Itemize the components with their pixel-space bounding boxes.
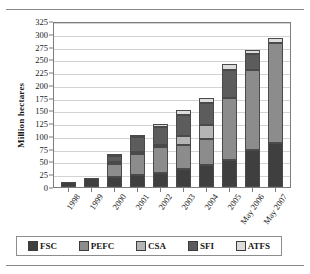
y-tick-label: 150 <box>35 107 48 116</box>
bar-segment-fsc[interactable] <box>153 173 168 187</box>
plot-area <box>53 22 291 188</box>
y-tick-label: 300 <box>35 31 48 40</box>
legend-swatch-csa <box>136 241 146 251</box>
bar-segment-sfi[interactable] <box>153 127 168 145</box>
chart-legend: FSCPEFCCSASFIATFS <box>16 236 282 256</box>
bar-segment-csa[interactable] <box>199 125 214 139</box>
bar-segment-sfi[interactable] <box>176 115 191 136</box>
figure-page: Million hectares 02550751001251501752002… <box>0 0 310 274</box>
bar-segment-sfi[interactable] <box>130 137 145 152</box>
y-tick-label: 0 <box>44 184 48 193</box>
bar-segment-sfi[interactable] <box>199 103 214 125</box>
bar-stack[interactable] <box>268 38 283 187</box>
x-tick-label: 1998 <box>64 192 82 212</box>
bar-segment-fsc[interactable] <box>245 150 260 187</box>
y-axis-tick-labels: 0255075100125150175200225250275300325 <box>0 22 53 188</box>
y-tick-label: 100 <box>35 133 48 142</box>
x-tick-label: 2005 <box>225 192 243 212</box>
legend-item-csa[interactable]: CSA <box>136 241 166 251</box>
bar-segment-pefc[interactable] <box>268 43 283 143</box>
bar-stack[interactable] <box>153 124 168 187</box>
legend-label: FSC <box>40 241 57 251</box>
bar-segment-fsc[interactable] <box>84 178 99 187</box>
bar-segment-csa[interactable] <box>176 136 191 145</box>
bar-segment-sfi[interactable] <box>222 70 237 98</box>
x-tick-label: 1999 <box>87 192 105 212</box>
y-tick-label: 200 <box>35 82 48 91</box>
x-tick-label: 2004 <box>202 192 220 212</box>
chart-figure: Million hectares 02550751001251501752002… <box>0 12 310 266</box>
legend-label: CSA <box>148 241 166 251</box>
legend-swatch-sfi <box>188 241 198 251</box>
bar-segment-pefc[interactable] <box>153 147 168 173</box>
bar-segment-fsc[interactable] <box>61 182 76 187</box>
legend-item-fsc[interactable]: FSC <box>28 241 57 251</box>
bar-segment-pefc[interactable] <box>199 139 214 166</box>
bar-stack[interactable] <box>61 182 76 187</box>
bar-stack[interactable] <box>107 154 122 187</box>
bar-segment-pefc[interactable] <box>130 154 145 175</box>
bar-segment-fsc[interactable] <box>222 160 237 187</box>
bar-stack[interactable] <box>84 178 99 187</box>
legend-label: SFI <box>200 241 214 251</box>
legend-label: ATFS <box>248 241 270 251</box>
bar-stack[interactable] <box>130 135 145 188</box>
bar-segment-sfi[interactable] <box>245 54 260 70</box>
y-tick-label: 25 <box>40 171 49 180</box>
bar-segment-pefc[interactable] <box>176 145 191 170</box>
x-tick-label: 2002 <box>156 192 174 212</box>
bar-segment-fsc[interactable] <box>130 175 145 187</box>
y-tick-label: 225 <box>35 69 48 78</box>
y-tick-label: 275 <box>35 43 48 52</box>
bar-series-container <box>54 23 290 187</box>
legend-item-atfs[interactable]: ATFS <box>236 241 270 251</box>
bar-stack[interactable] <box>222 64 237 187</box>
bar-segment-pefc[interactable] <box>107 164 122 177</box>
legend-label: PEFC <box>91 241 115 251</box>
bar-stack[interactable] <box>199 98 214 187</box>
legend-swatch-fsc <box>28 241 38 251</box>
bar-segment-fsc[interactable] <box>199 165 214 187</box>
y-tick-label: 325 <box>35 18 48 27</box>
bar-segment-pefc[interactable] <box>222 98 237 161</box>
bar-segment-fsc[interactable] <box>107 177 122 187</box>
y-tick-label: 50 <box>40 158 49 167</box>
y-tick-label: 175 <box>35 94 48 103</box>
y-tick-label: 250 <box>35 56 48 65</box>
bar-stack[interactable] <box>176 110 191 187</box>
page-rule-top <box>6 9 304 10</box>
y-tick-label: 125 <box>35 120 48 129</box>
bar-segment-fsc[interactable] <box>268 143 283 187</box>
legend-item-sfi[interactable]: SFI <box>188 241 214 251</box>
y-tick-label: 75 <box>40 145 49 154</box>
legend-swatch-pefc <box>79 241 89 251</box>
legend-item-pefc[interactable]: PEFC <box>79 241 115 251</box>
legend-swatch-atfs <box>236 241 246 251</box>
bar-segment-fsc[interactable] <box>176 169 191 187</box>
x-tick-label: 2003 <box>179 192 197 212</box>
bar-stack[interactable] <box>245 50 260 187</box>
x-tick-label: 2001 <box>133 192 151 212</box>
x-tick-label: 2000 <box>110 192 128 212</box>
bar-segment-pefc[interactable] <box>245 70 260 150</box>
